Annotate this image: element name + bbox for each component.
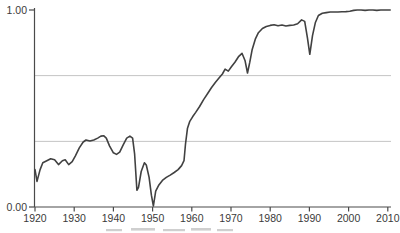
x-axis-tick-labels: 1920193019401950196019701980199020002010	[23, 212, 399, 224]
y-tick-label-min: 0.00	[7, 201, 28, 213]
x-tick-label: 1970	[219, 212, 243, 224]
x-tick-label: 1960	[180, 212, 204, 224]
x-axis-ticks	[35, 207, 388, 212]
clipped-caption-fragment	[106, 229, 122, 231]
clipped-caption-fragment	[191, 228, 211, 231]
x-tick-label: 2010	[376, 212, 400, 224]
y-tick-label-max: 1.00	[7, 4, 28, 16]
clipped-caption-fragment	[163, 229, 185, 231]
clipped-caption-fragments	[106, 228, 233, 231]
x-tick-label: 1980	[259, 212, 283, 224]
clipped-caption-fragment	[131, 228, 155, 231]
x-tick-label: 1990	[298, 212, 322, 224]
x-tick-label: 1930	[63, 212, 87, 224]
x-tick-label: 1920	[23, 212, 47, 224]
x-tick-label: 2000	[337, 212, 361, 224]
clipped-caption-fragment	[217, 229, 233, 231]
x-tick-label: 1940	[102, 212, 126, 224]
x-tick-label: 1950	[141, 212, 165, 224]
data-line	[35, 10, 390, 206]
line-chart: 1.00 0.00 192019301940195019601970198019…	[0, 0, 400, 233]
chart-figure: 1.00 0.00 192019301940195019601970198019…	[0, 0, 400, 233]
